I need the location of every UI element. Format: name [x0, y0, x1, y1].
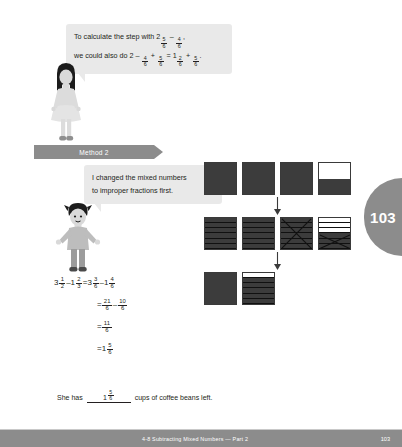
eq1-mixed2-whole: 1: [71, 279, 75, 287]
down-arrow-icon: [204, 250, 351, 272]
bubble-first-mixed-fraction: 56: [161, 37, 167, 49]
bubble-second-line2: to improper fractions first.: [92, 184, 214, 197]
model-row-1: [204, 162, 351, 195]
denominator: 6: [119, 306, 125, 312]
half-empty: [319, 163, 350, 179]
final-sentence-after: cups of coffee beans left.: [135, 394, 213, 401]
down-arrow-icon: [204, 195, 351, 217]
model-square-half: [318, 162, 351, 195]
denominator: 6: [108, 396, 114, 401]
eq1-mixed3-fraction: 36: [93, 277, 99, 290]
denominator: 6: [107, 350, 113, 356]
page-number-tab: 103: [364, 178, 402, 256]
textbook-page: To calculate the step with 256 – 46, we …: [0, 0, 402, 447]
bubble-first-line1-pre: To calculate the step with: [74, 32, 156, 41]
model-square-solid: [204, 272, 237, 305]
bubble-first-line2-end: .: [200, 51, 202, 60]
eq2-equals: =: [97, 301, 102, 309]
bubble-first-fraction-2: 46: [176, 37, 182, 49]
fraction-model-diagram: [204, 162, 351, 305]
denominator: 6: [193, 62, 199, 67]
bubble-first-line2: we could also do 2 – 46 + 56 = 126 + 56.: [74, 49, 224, 68]
denominator: 3: [76, 284, 82, 290]
denominator: 2: [59, 284, 65, 290]
equation-row: = 116: [54, 316, 128, 338]
bubble-first-line1-post: ,: [183, 32, 185, 41]
girl-character-icon: [44, 62, 88, 144]
answer-blank[interactable]: 156: [87, 390, 131, 403]
answer-whole: 1: [103, 394, 107, 401]
eq3-fraction: 116: [102, 321, 111, 334]
eq4-mixed-whole: 1: [102, 345, 106, 353]
bubble-second-line1: I changed the mixed numbers: [92, 171, 214, 184]
method-banner-label: Method 2: [79, 149, 109, 156]
bubble-first-minus: –: [168, 32, 176, 41]
denominator: 6: [104, 306, 110, 312]
bubble-first-l2-mixed-fraction: 26: [177, 56, 183, 68]
eq1-mixed3-whole: 3: [87, 279, 91, 287]
bubble-first-equals: =: [164, 51, 172, 60]
equation-row: = 216 – 106: [54, 294, 128, 316]
eq1-mixed1-whole: 3: [54, 279, 58, 287]
model-square-sixths: [242, 217, 275, 250]
model-square-sixths: [204, 217, 237, 250]
bubble-first-line1: To calculate the step with 256 – 46,: [74, 30, 224, 49]
page-footer: 4-8 Subtracting Mixed Numbers — Part 2 1…: [0, 430, 402, 447]
banner-arrow-tip: [154, 145, 163, 159]
model-square-solid: [280, 162, 313, 195]
speech-bubble-second: I changed the mixed numbers to improper …: [84, 165, 222, 204]
speech-bubble-first: To calculate the step with 256 – 46, we …: [66, 24, 232, 74]
bubble-first-l2-fraction-3: 56: [193, 56, 199, 68]
eq4-mixed-fraction: 56: [107, 343, 113, 356]
bubble-first-mixed-whole: 2: [156, 32, 160, 41]
bubble-first-l2-fraction-2: 56: [158, 56, 164, 68]
eq2-fraction-1: 216: [102, 299, 112, 312]
model-row-3: [204, 272, 351, 305]
model-square-solid: [242, 162, 275, 195]
eq1-mixed2-fraction: 23: [76, 277, 82, 290]
eq3-equals: =: [97, 323, 102, 331]
denominator: 6: [109, 284, 115, 290]
model-row-2: [204, 217, 351, 250]
bubble-first-l2-mixed-whole: 1: [173, 51, 177, 60]
final-answer-sentence: She has 156 cups of coffee beans left.: [57, 390, 212, 403]
equation-block: 312 – 123 = 336 – 146 = 216 – 106 = 116 …: [54, 272, 128, 360]
bubble-first-plus: +: [149, 51, 157, 60]
eq1-mixed4-fraction: 46: [109, 277, 115, 290]
method-banner: Method 2: [34, 145, 154, 159]
denominator: 6: [104, 328, 110, 334]
answer-fraction: 56: [108, 390, 114, 401]
eq1-mixed4-whole: 1: [104, 279, 108, 287]
footer-page-number: 103: [381, 436, 390, 442]
equation-row: 312 – 123 = 336 – 146: [54, 272, 128, 294]
model-square-sixths-partial-crossed: [318, 217, 351, 250]
bubble-first-line2-pre: we could also do 2 –: [74, 51, 142, 60]
denominator: 6: [93, 284, 99, 290]
half-filled: [319, 179, 350, 195]
final-sentence-before: She has: [57, 394, 83, 401]
eq1-mixed1-fraction: 12: [59, 277, 65, 290]
denominator: 6: [177, 62, 183, 67]
model-square-solid: [204, 162, 237, 195]
denominator: 6: [158, 62, 164, 67]
model-square-sixths-crossed: [280, 217, 313, 250]
denominator: 6: [142, 62, 148, 67]
boy-character-icon: [52, 200, 104, 276]
eq2-minus: –: [113, 301, 117, 309]
eq2-fraction-2: 106: [118, 299, 128, 312]
footer-lesson-title: 4-8 Subtracting Mixed Numbers — Part 2: [142, 436, 248, 442]
model-square-sixths: [242, 272, 275, 305]
bubble-first-plus-2: +: [184, 51, 192, 60]
page-tab-number: 103: [370, 209, 396, 226]
equation-row: = 156: [54, 338, 128, 360]
bubble-first-l2-fraction-1: 46: [142, 56, 148, 68]
